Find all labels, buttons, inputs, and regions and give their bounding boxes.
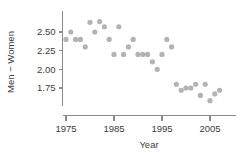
data-point	[155, 67, 160, 72]
data-point	[87, 20, 92, 25]
data-point	[174, 82, 179, 87]
data-point	[188, 85, 193, 90]
data-point	[203, 82, 208, 87]
data-point-group	[63, 19, 222, 103]
data-point	[159, 52, 164, 57]
data-point	[83, 44, 88, 49]
data-point	[111, 52, 116, 57]
data-point	[207, 98, 212, 103]
data-point	[63, 37, 68, 42]
scatter-plot-figure: 1.752.002.252.50 1975198519952005 Year M…	[0, 0, 242, 153]
data-point	[212, 91, 217, 96]
data-point	[116, 24, 121, 29]
y-tick-label: 2.50	[37, 26, 56, 37]
x-axis-title: Year	[139, 139, 158, 150]
x-tick-label: 1985	[103, 123, 124, 134]
data-point	[78, 37, 83, 42]
x-tick-label: 1975	[55, 123, 76, 134]
data-point	[169, 44, 174, 49]
x-tick-label-group: 1975198519952005	[55, 123, 220, 134]
data-point	[217, 88, 222, 93]
y-axis-title: Men − Women	[5, 31, 16, 93]
data-point	[68, 29, 73, 34]
data-point	[150, 59, 155, 64]
data-point	[193, 82, 198, 87]
data-point	[140, 52, 145, 57]
data-point	[131, 37, 136, 42]
x-tick-label: 2005	[199, 123, 220, 134]
data-point	[179, 88, 184, 93]
data-point	[135, 52, 140, 57]
y-tick-label: 1.75	[37, 82, 56, 93]
data-point	[164, 37, 169, 42]
data-point	[73, 37, 78, 42]
data-point	[121, 52, 126, 57]
y-tick-label: 2.00	[37, 64, 56, 75]
data-point	[126, 44, 131, 49]
plot-canvas: 1.752.002.252.50 1975198519952005 Year M…	[0, 0, 242, 153]
y-tick-label-group: 1.752.002.252.50	[37, 26, 56, 93]
data-point	[198, 93, 203, 98]
data-point	[145, 52, 150, 57]
data-point	[107, 37, 112, 42]
data-point	[102, 24, 107, 29]
x-tick-label: 1995	[151, 123, 172, 134]
data-point	[97, 19, 102, 24]
x-tick-group	[66, 116, 210, 121]
y-tick-label: 2.25	[37, 45, 56, 56]
data-point	[183, 85, 188, 90]
y-tick-group	[59, 32, 63, 88]
data-point	[92, 29, 97, 34]
